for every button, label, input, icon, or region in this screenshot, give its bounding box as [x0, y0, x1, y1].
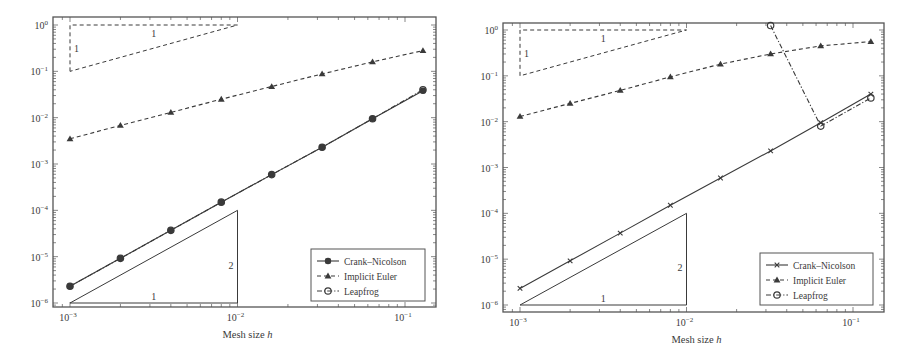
left-plot: 10−310−210−110010−110−210−310−410−510−6M…	[31, 17, 436, 340]
y-tick-label: 10−5	[481, 253, 499, 265]
legend-label: Crank–Nicolson	[344, 257, 407, 267]
y-tick-label: 10−2	[31, 112, 49, 124]
legend-marker	[325, 258, 331, 264]
x-tick-label: 10−3	[59, 311, 77, 323]
data-point	[218, 96, 225, 102]
y-tick-label: 100	[35, 19, 49, 31]
legend-label: Crank–Nicolson	[793, 261, 856, 271]
x-tick-label: 10−1	[394, 311, 412, 323]
legend-label: Leapfrog	[344, 287, 379, 297]
x-tick-label: 10−2	[227, 311, 245, 323]
slope-run-label: 1	[601, 293, 606, 304]
data-point	[668, 203, 673, 208]
data-point	[717, 61, 724, 67]
series-implicit-euler	[67, 47, 427, 141]
series-implicit-euler	[517, 38, 875, 119]
slope-triangle-order2: 12	[70, 210, 238, 303]
slope-run-label: 1	[151, 291, 156, 302]
slope-run-label: 1	[151, 28, 156, 39]
figure: 10−310−210−110010−110−210−310−410−510−6M…	[0, 0, 906, 356]
y-tick-label: 10−1	[481, 70, 499, 82]
x-tick-label: 10−1	[842, 316, 860, 328]
x-tick-label: 10−3	[509, 316, 527, 328]
data-point	[867, 38, 874, 44]
data-point	[868, 95, 874, 101]
data-point	[768, 149, 773, 154]
data-point	[718, 176, 723, 181]
legend: Crank–NicolsonImplicit EulerLeapfrog	[311, 249, 425, 301]
legend-label: Implicit Euler	[344, 272, 398, 282]
data-point	[618, 231, 623, 236]
slope-rise-label: 2	[678, 262, 683, 273]
legend: Crank–NicolsonImplicit EulerLeapfrog	[760, 253, 873, 305]
legend-label: Leapfrog	[793, 291, 828, 301]
data-series	[517, 22, 875, 290]
data-point	[369, 58, 376, 64]
y-tick-label: 10−1	[31, 65, 49, 77]
data-point	[518, 286, 523, 291]
x-axis-label: Mesh size h	[671, 334, 721, 345]
data-point	[117, 122, 124, 128]
data-point	[567, 100, 574, 106]
legend-label: Implicit Euler	[793, 276, 847, 286]
x-tick-label: 10−2	[676, 316, 694, 328]
slope-rise-label: 2	[229, 260, 234, 271]
data-point	[568, 259, 573, 264]
y-tick-label: 10−2	[481, 116, 499, 128]
series-leapfrog	[767, 22, 874, 129]
y-tick-label: 10−4	[481, 207, 499, 219]
y-tick-label: 10−6	[481, 299, 499, 311]
slope-rise-label: 1	[524, 48, 529, 59]
slope-rise-label: 1	[74, 43, 79, 54]
figure-canvas: 10−310−210−110010−110−210−310−410−510−6M…	[0, 0, 906, 356]
slope-triangle-order1: 11	[520, 30, 687, 76]
slope-triangle-order1: 11	[70, 25, 238, 71]
slope-triangle-order2: 12	[520, 213, 687, 305]
y-tick-label: 10−6	[31, 297, 49, 309]
y-tick-label: 10−3	[481, 162, 499, 174]
series-line	[771, 26, 871, 127]
y-tick-label: 10−5	[31, 251, 49, 263]
y-tick-label: 10−4	[31, 204, 49, 216]
x-axis-label: Mesh size h	[222, 329, 272, 340]
y-tick-label: 100	[485, 24, 499, 36]
slope-run-label: 1	[601, 33, 606, 44]
y-tick-label: 10−3	[31, 158, 49, 170]
right-plot: 10−310−210−110010−110−210−310−410−510−6M…	[481, 22, 884, 345]
data-point	[420, 47, 427, 53]
